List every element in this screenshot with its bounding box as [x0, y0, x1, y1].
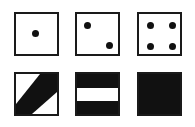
pip [147, 43, 154, 50]
die-face-one [14, 12, 59, 56]
white-stripe [77, 88, 118, 101]
pip [106, 42, 113, 49]
pip [84, 22, 91, 29]
horizontal-stripe-panel [75, 72, 120, 116]
pip [147, 22, 154, 29]
pip [169, 22, 176, 29]
solid-black-panel [137, 72, 182, 116]
die-face-two [75, 12, 120, 56]
pip [169, 43, 176, 50]
pip [32, 30, 39, 37]
diagonal-band-shape [16, 74, 57, 114]
diagonal-band-panel [14, 72, 59, 116]
die-face-four [137, 12, 182, 56]
